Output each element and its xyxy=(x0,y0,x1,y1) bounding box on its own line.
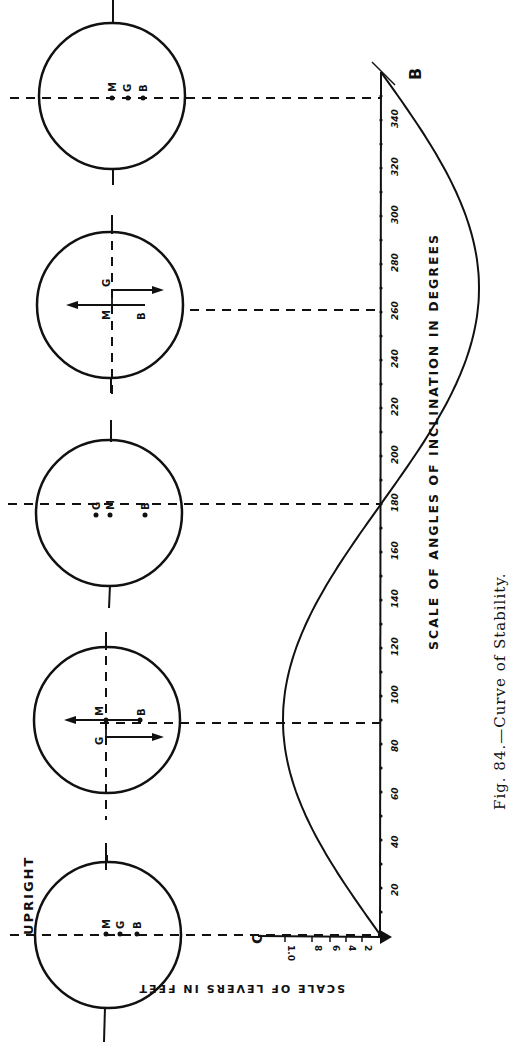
point-m-180: M xyxy=(105,500,116,510)
stability-curve-figure: 2040608010012014016018020022024026028030… xyxy=(0,0,526,1056)
angle-tick-label: 80 xyxy=(390,739,400,752)
upright-label: UPRIGHT xyxy=(21,856,36,935)
lever-tick-label: 2 xyxy=(363,945,373,951)
point-b-0: B xyxy=(132,921,143,929)
lever-axis-ticks: 24681.0 xyxy=(285,936,373,961)
couple-arrows-90 xyxy=(64,716,164,741)
couple-arrows-270 xyxy=(66,286,164,309)
point-b-90: B xyxy=(136,708,147,716)
angle-tick-label: 200 xyxy=(390,445,400,464)
point-b-180: B xyxy=(140,502,151,510)
point-g-0: G xyxy=(115,921,126,929)
angle-tick-label: 100 xyxy=(390,685,400,704)
point-b-270: B xyxy=(136,312,147,320)
y-axis-title: SCALE OF LEVERS IN FEET xyxy=(137,982,345,995)
point-c-label: C xyxy=(249,934,265,944)
point-g-180: G xyxy=(91,502,102,510)
angle-axis-ticks: 2040608010012014016018020022024026028030… xyxy=(379,94,400,913)
angle-tick-label: 240 xyxy=(390,349,400,368)
angle-tick-label: 340 xyxy=(390,109,400,128)
end-marker-b xyxy=(372,62,395,85)
angle-tick-label: 60 xyxy=(390,787,400,800)
point-m-0: M xyxy=(101,919,112,929)
point-g-360: G xyxy=(122,84,133,92)
lever-tick-label: 1.0 xyxy=(286,945,296,961)
angle-tick-label: 320 xyxy=(390,157,400,176)
angle-tick-label: 40 xyxy=(390,835,400,849)
lever-tick-label: 6 xyxy=(331,945,341,951)
angle-tick-label: 120 xyxy=(390,637,400,656)
angle-tick-label: 20 xyxy=(390,883,400,896)
point-m-360: M xyxy=(107,82,118,92)
point-b-label: B xyxy=(406,68,425,80)
point-g-90: G xyxy=(94,737,105,745)
angle-tick-label: 160 xyxy=(390,541,400,560)
angle-tick-label: 280 xyxy=(390,253,400,272)
lever-tick-label: 4 xyxy=(347,945,357,951)
lever-tick-label: 8 xyxy=(313,945,323,951)
point-b-360: B xyxy=(138,84,149,92)
angle-tick-label: 220 xyxy=(390,397,400,416)
angle-tick-label: 260 xyxy=(390,301,400,320)
x-axis-title: SCALE OF ANGLES OF INCLINATION IN DEGREE… xyxy=(426,233,441,650)
point-g-270: G xyxy=(101,279,112,287)
point-m-270: M xyxy=(101,310,112,320)
angle-tick-label: 180 xyxy=(390,493,400,512)
origin-arrow-icon xyxy=(380,930,392,944)
figure-caption: Fig. 84.—Curve of Stability. xyxy=(491,573,509,811)
point-m-90: M xyxy=(94,706,105,716)
angle-tick-label: 140 xyxy=(390,589,400,608)
angle-tick-label: 300 xyxy=(390,205,400,224)
